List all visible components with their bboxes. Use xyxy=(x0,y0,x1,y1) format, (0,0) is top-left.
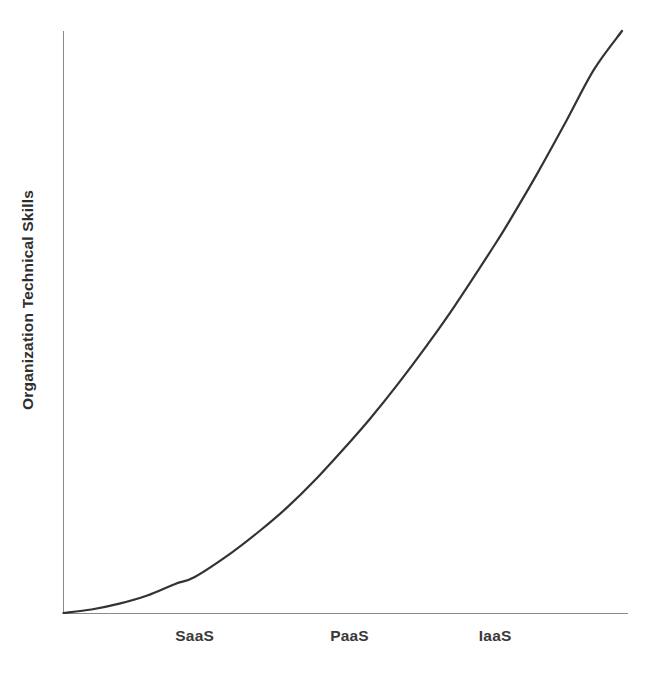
line-chart: Organization Technical Skills SaaS PaaS … xyxy=(0,0,653,673)
chart-container: Organization Technical Skills SaaS PaaS … xyxy=(0,0,653,673)
x-tick-label-iaas: IaaS xyxy=(479,627,512,644)
y-axis-title: Organization Technical Skills xyxy=(19,190,36,410)
chart-background xyxy=(0,0,653,673)
x-tick-label-paas: PaaS xyxy=(330,627,369,644)
x-tick-label-saas: SaaS xyxy=(175,627,214,644)
